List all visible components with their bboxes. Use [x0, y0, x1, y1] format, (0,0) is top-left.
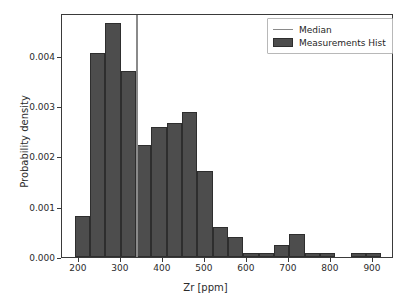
y-tick-mark — [57, 157, 61, 158]
x-tick-label: 300 — [111, 263, 128, 273]
y-tick-mark — [57, 57, 61, 58]
x-tick-mark — [372, 258, 373, 262]
median-line — [136, 15, 138, 257]
x-tick-mark — [330, 258, 331, 262]
y-tick-mark — [57, 208, 61, 209]
legend-item-measurements-hist: Measurements Hist — [273, 36, 386, 49]
y-tick-label: 0.003 — [29, 102, 55, 112]
histogram-patch-swatch — [273, 38, 293, 48]
y-tick-label: 0.000 — [29, 253, 55, 263]
x-tick-label: 500 — [195, 263, 212, 273]
x-tick-mark — [120, 258, 121, 262]
x-tick-mark — [246, 258, 247, 262]
x-tick-mark — [162, 258, 163, 262]
median-line-swatch — [273, 25, 293, 35]
y-tick-label: 0.001 — [29, 203, 55, 213]
y-tick-mark — [57, 107, 61, 108]
x-tick-label: 200 — [69, 263, 86, 273]
y-tick-label: 0.004 — [29, 52, 55, 62]
x-tick-label: 400 — [153, 263, 170, 273]
x-tick-label: 900 — [363, 263, 380, 273]
legend-label-measurements-hist: Measurements Hist — [299, 38, 386, 48]
x-axis-label: Zr [ppm] — [0, 282, 411, 293]
x-tick-mark — [78, 258, 79, 262]
x-tick-label: 800 — [321, 263, 338, 273]
legend-label-median: Median — [299, 25, 332, 35]
histogram-figure: 0.0000.0010.0020.0030.004 20030040050060… — [0, 0, 411, 308]
x-tick-mark — [204, 258, 205, 262]
y-tick-mark — [57, 258, 61, 259]
y-tick-label: 0.002 — [29, 152, 55, 162]
x-tick-label: 600 — [237, 263, 254, 273]
chart-legend[interactable]: Median Measurements Hist — [267, 18, 393, 54]
y-axis-label: Probability density — [19, 62, 30, 222]
legend-item-median: Median — [273, 23, 386, 36]
x-tick-mark — [288, 258, 289, 262]
x-tick-label: 700 — [279, 263, 296, 273]
